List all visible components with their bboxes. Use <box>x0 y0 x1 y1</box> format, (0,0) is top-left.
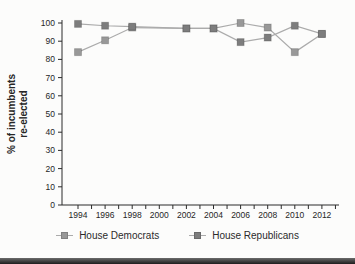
svg-text:2008: 2008 <box>258 210 277 220</box>
svg-text:1996: 1996 <box>96 210 115 220</box>
svg-text:20: 20 <box>46 164 56 174</box>
svg-text:0: 0 <box>50 200 55 210</box>
svg-text:50: 50 <box>46 109 56 119</box>
svg-text:80: 80 <box>46 54 56 64</box>
legend-item-house-republicans: House Republicans <box>189 230 299 241</box>
svg-text:1998: 1998 <box>123 210 142 220</box>
page-edge-bar <box>0 258 355 264</box>
svg-text:10: 10 <box>46 182 56 192</box>
svg-text:2004: 2004 <box>204 210 223 220</box>
republicans-line-marker-icon <box>189 232 206 240</box>
scanned-textbook-figure: % of incumbents re-elected 0102030405060… <box>0 0 355 264</box>
svg-text:40: 40 <box>46 127 56 137</box>
svg-text:2006: 2006 <box>231 210 250 220</box>
legend-label-house-democrats: House Democrats <box>79 230 159 241</box>
svg-text:2010: 2010 <box>285 210 304 220</box>
svg-text:30: 30 <box>46 145 56 155</box>
svg-text:60: 60 <box>46 91 56 101</box>
legend-label-house-republicans: House Republicans <box>212 230 299 241</box>
democrats-line-marker-icon <box>56 232 73 240</box>
chart-legend: House Democrats House Republicans <box>0 230 355 241</box>
svg-text:2002: 2002 <box>177 210 196 220</box>
legend-item-house-democrats: House Democrats <box>56 230 159 241</box>
svg-text:2000: 2000 <box>150 210 169 220</box>
svg-text:90: 90 <box>46 36 56 46</box>
svg-text:1994: 1994 <box>69 210 88 220</box>
svg-text:70: 70 <box>46 73 56 83</box>
svg-text:2012: 2012 <box>312 210 331 220</box>
svg-text:100: 100 <box>41 18 55 28</box>
line-chart-plot-area: 0102030405060708090100199419961998200020… <box>0 0 355 228</box>
